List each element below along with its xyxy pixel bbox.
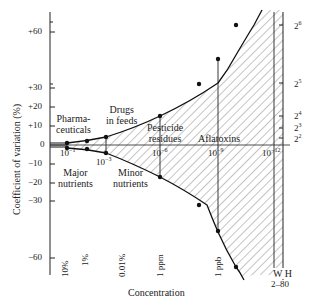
- annotation-aflatoxins: Aflatoxins: [198, 133, 240, 144]
- xbottom-1pct: 1%: [80, 254, 90, 266]
- x-axis-label: Concentration: [128, 287, 185, 298]
- ytick-p20: +20: [28, 101, 42, 111]
- y-axis-ticks: [50, 22, 55, 258]
- xtick-1e-9: 10−9: [208, 147, 223, 158]
- annotation-drugs-in-feeds: Drugs in feeds: [106, 104, 137, 126]
- ytick-zero: 0: [40, 139, 45, 149]
- annotation-major-nutrients: Major nutrients: [58, 167, 93, 189]
- rtick-2-5: 25: [294, 78, 302, 89]
- ytick-m10: −10: [28, 158, 42, 168]
- ytick-m30: −30: [28, 195, 42, 205]
- xbottom-1ppm: 1 ppm: [155, 254, 165, 277]
- ytick-m20: −20: [28, 177, 42, 187]
- annotation-wh: W H: [273, 268, 292, 279]
- rtick-2-4: 24: [294, 110, 302, 121]
- rtick-2-3: 23: [294, 122, 302, 133]
- ytick-m60: −60: [28, 252, 42, 262]
- ytick-p60: +60: [28, 26, 42, 36]
- xtick-1e-12: 10−12: [262, 147, 280, 158]
- annotation-wh-range: 2–80: [271, 279, 289, 289]
- xbottom-10pct: 10%: [60, 261, 70, 278]
- ytick-p10: +10: [28, 120, 42, 130]
- annotation-pesticide-residues: Pesticide residues: [147, 122, 183, 144]
- annotation-pharmaceuticals: Pharma- ceuticals: [56, 113, 91, 135]
- ytick-p30: +30: [28, 82, 42, 92]
- xtick-1e-3: 10−3: [96, 156, 111, 167]
- rtick-2-2: 22: [294, 133, 302, 144]
- xtick-1e-1: 10−1: [60, 147, 75, 158]
- rtick-2-6: 26: [294, 20, 302, 31]
- xbottom-1ppb: 1 ppb: [213, 257, 223, 277]
- y-axis-label: Coefficient of variation (%): [11, 104, 22, 215]
- xtick-1e-6: 10−6: [152, 147, 167, 158]
- annotation-minor-nutrients: Minor nutrients: [113, 167, 148, 189]
- xbottom-0.01pct: 0.01%: [117, 254, 127, 277]
